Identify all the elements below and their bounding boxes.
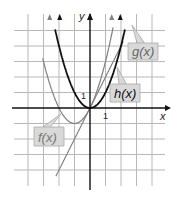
arrow-head-icon xyxy=(57,14,62,20)
curve-fx xyxy=(43,27,113,123)
label-g: g(x) xyxy=(132,44,154,59)
function-plot: xy11g(x)h(x)f(x) xyxy=(0,0,178,198)
y-axis-label: y xyxy=(78,10,86,22)
axes xyxy=(12,13,171,190)
label-h: h(x) xyxy=(114,86,136,101)
x-axis-label: x xyxy=(159,110,166,122)
y-axis-arrow-icon xyxy=(87,13,93,20)
arrow-head-icon xyxy=(47,14,52,20)
label-f: f(x) xyxy=(38,130,57,145)
arrow-head-icon xyxy=(118,14,123,20)
arrow-head-icon xyxy=(109,14,114,20)
y-tick-label: 1 xyxy=(81,91,86,101)
x-axis-arrow-icon xyxy=(165,105,171,111)
x-tick-label: 1 xyxy=(103,111,108,121)
